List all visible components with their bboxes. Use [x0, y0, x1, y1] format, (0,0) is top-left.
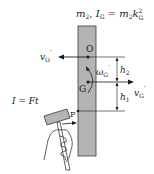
label-h1: h1 [120, 92, 130, 103]
hand [44, 130, 72, 162]
label-O: O [86, 44, 93, 54]
label-h2: h2 [120, 65, 130, 76]
h1-arrow-bottom [116, 107, 119, 111]
label-G: G [79, 84, 86, 94]
label-P: P [70, 110, 76, 119]
rod-impulse-diagram: m2, IG = m2k2G O vO′ G ωG′ vG′ P h2 h1 I… [0, 0, 154, 174]
h2-arrow-top [116, 58, 119, 62]
vG-arrowhead [128, 80, 134, 85]
impact-arrowhead [72, 121, 77, 125]
point-P [77, 110, 80, 113]
vO-arrowhead [58, 55, 64, 60]
label-vG: vG′ [134, 85, 146, 99]
label-vO: vO′ [40, 49, 52, 63]
label-omega: ωG′ [96, 64, 110, 78]
h1-arrow-top [116, 83, 119, 87]
mass-inertia-formula: m2, IG = m2k2G [76, 7, 143, 21]
point-O [87, 56, 90, 59]
h2-arrow-bottom [116, 78, 119, 82]
impulse-label: I = Ft [11, 96, 39, 106]
